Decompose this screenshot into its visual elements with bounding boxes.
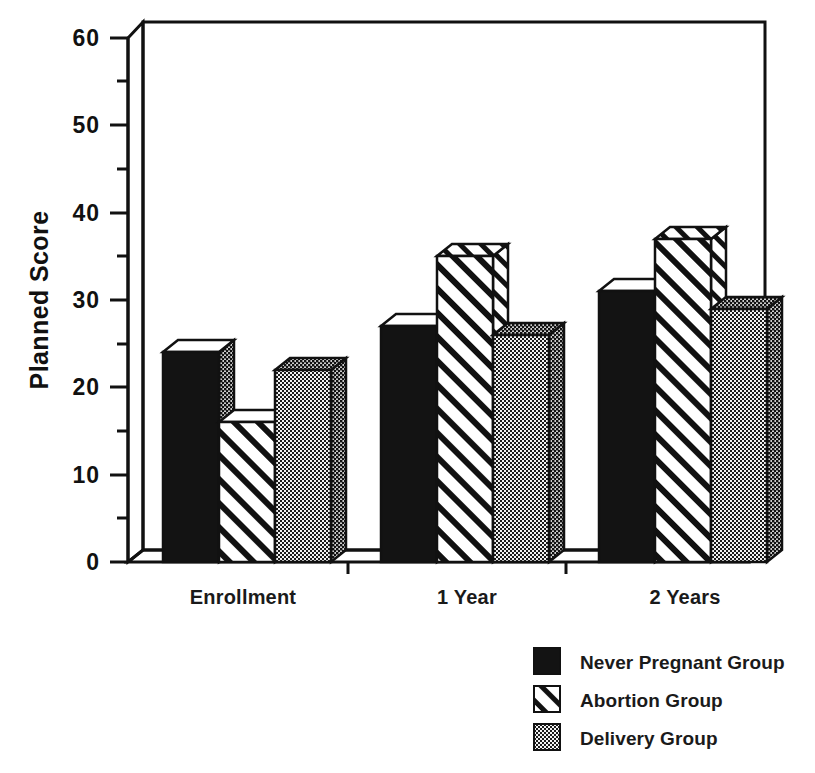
y-tick-label-50: 50	[72, 112, 100, 138]
y-tick-label-10: 10	[72, 462, 100, 488]
legend-label-abortion: Abortion Group	[580, 690, 723, 711]
bar-front-face	[655, 239, 711, 562]
y-tick-label-20: 20	[72, 374, 100, 400]
bar-front-face	[163, 352, 219, 562]
y-axis: 60 50 40 30 20 10 0 Planned Score	[25, 25, 128, 575]
bar-group-1-year	[381, 244, 564, 562]
legend-label-delivery: Delivery Group	[580, 728, 718, 749]
y-axis-major-ticks	[110, 38, 128, 562]
bar-front-face	[219, 422, 275, 562]
y-tick-label-60: 60	[72, 25, 100, 51]
y-axis-title: Planned Score	[25, 211, 53, 390]
solid-black-swatch-icon	[534, 648, 560, 674]
bar-side-face	[767, 297, 782, 562]
legend-entry-abortion[interactable]: Abortion Group	[534, 686, 723, 712]
legend-entry-delivery[interactable]: Delivery Group	[534, 724, 718, 750]
dotted-stipple-swatch-icon	[534, 724, 560, 750]
chart-legend: Never Pregnant Group Abortion Group Deli…	[534, 648, 785, 750]
bar-group-2-years	[599, 227, 782, 562]
bar-enrollment-delivery[interactable]	[275, 358, 346, 562]
bar-chart-figure: 60 50 40 30 20 10 0 Planned Score	[0, 0, 815, 773]
legend-entry-never-pregnant[interactable]: Never Pregnant Group	[534, 648, 785, 674]
bar-2years-delivery[interactable]	[711, 297, 782, 562]
legend-label-never-pregnant: Never Pregnant Group	[580, 652, 785, 673]
y-tick-label-0: 0	[86, 549, 100, 575]
y-tick-label-40: 40	[72, 200, 100, 226]
x-axis: Enrollment 1 Year 2 Years	[190, 562, 721, 608]
bar-front-face	[493, 335, 549, 562]
x-tick-label-2-years: 2 Years	[649, 586, 720, 608]
bar-front-face	[275, 370, 331, 562]
bar-1year-delivery[interactable]	[493, 323, 564, 562]
bar-side-face	[331, 358, 346, 562]
bar-group-enrollment	[163, 340, 346, 562]
chart-container: 60 50 40 30 20 10 0 Planned Score	[0, 0, 815, 773]
bar-front-face	[599, 291, 655, 562]
plot-left-wall	[128, 22, 143, 562]
bar-front-face	[381, 326, 437, 562]
x-tick-label-1-year: 1 Year	[437, 586, 497, 608]
diagonal-hatch-swatch-icon	[534, 686, 560, 712]
x-tick-label-enrollment: Enrollment	[190, 586, 297, 608]
y-tick-label-30: 30	[72, 287, 100, 313]
bar-front-face	[437, 256, 493, 562]
bar-side-face	[549, 323, 564, 562]
bar-front-face	[711, 309, 767, 562]
